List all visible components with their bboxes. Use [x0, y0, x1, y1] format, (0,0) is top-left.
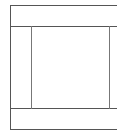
main-content-region: [32, 27, 109, 108]
frame-bottom-border: [10, 129, 117, 130]
frame-left-border: [10, 5, 11, 130]
header-region: [11, 6, 117, 26]
header-separator: [10, 26, 117, 27]
right-column-separator: [109, 26, 110, 109]
frame-top-border: [10, 5, 117, 6]
wireframe-canvas: [0, 0, 117, 135]
left-column-separator: [31, 26, 32, 109]
footer-separator: [10, 108, 117, 109]
left-sidebar-region: [11, 27, 31, 108]
footer-region: [11, 109, 117, 129]
right-sidebar-region: [110, 27, 117, 108]
